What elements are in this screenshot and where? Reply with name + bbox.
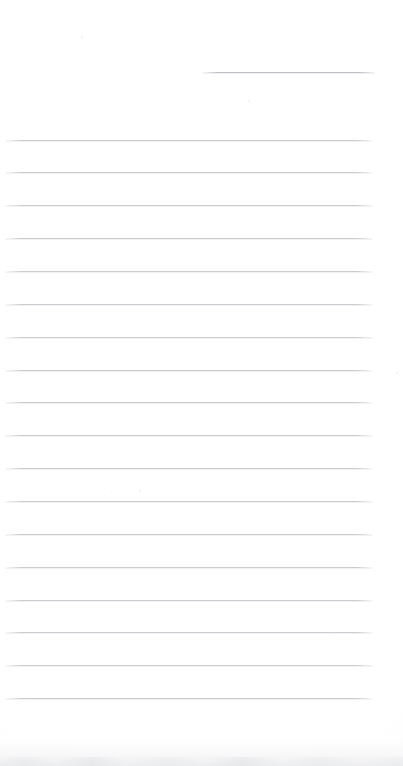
scan-speck [237, 103, 238, 104]
ruled-line [5, 304, 372, 305]
ruled-line [5, 172, 372, 173]
bottom-edge-speckle [0, 757, 403, 766]
scan-speck [396, 372, 398, 374]
ruled-line [5, 665, 372, 666]
ruled-line [5, 435, 372, 436]
ruled-line-halo [5, 173, 372, 174]
ruled-line [5, 600, 372, 601]
ruled-line [5, 337, 372, 338]
ruled-line [5, 205, 372, 206]
bottom-edge-shadow [0, 740, 403, 766]
ruled-line-halo [5, 272, 372, 273]
scan-speck [139, 490, 141, 492]
ruled-line-halo [5, 436, 372, 437]
ruled-line-halo [5, 535, 372, 536]
ruled-line [5, 402, 372, 403]
ruled-line [5, 140, 372, 141]
ruled-line-halo [202, 73, 375, 74]
page-text-content [0, 0, 1, 1]
scan-speck [81, 36, 83, 38]
ruled-line-halo [5, 403, 372, 404]
ruled-line [5, 370, 372, 371]
scan-speck [330, 635, 331, 636]
scan-speck [111, 492, 112, 493]
ruled-line [5, 698, 372, 699]
ruled-line-halo [5, 601, 372, 602]
ruled-line-halo [5, 239, 372, 240]
ruled-line-halo [5, 568, 372, 569]
ruled-line-halo [5, 206, 372, 207]
scanned-page [0, 0, 403, 766]
ruled-line [5, 534, 372, 535]
ruled-line [5, 501, 372, 502]
ruled-line-halo [5, 633, 372, 634]
ruled-line-halo [5, 666, 372, 667]
ruled-line [5, 468, 372, 469]
ruled-line [5, 271, 372, 272]
ruled-line [5, 567, 372, 568]
scan-speck [28, 453, 29, 454]
scan-speck [198, 741, 199, 742]
scan-speck [238, 57, 239, 58]
ruled-line-halo [5, 469, 372, 470]
ruled-line-halo [5, 141, 372, 142]
ruled-line-halo [5, 338, 372, 339]
ruled-line [5, 632, 372, 633]
ruled-line-halo [5, 305, 372, 306]
short-ruled-line [202, 72, 375, 73]
ruled-line [5, 238, 372, 239]
ruled-line-halo [5, 699, 372, 700]
scan-speck [248, 100, 250, 102]
paper-surface [0, 0, 403, 766]
ruled-line-halo [5, 371, 372, 372]
ruled-line-halo [5, 502, 372, 503]
